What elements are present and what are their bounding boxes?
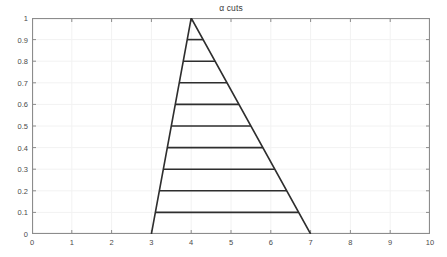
x-axis-tick-labels: 012345678910 [32, 238, 430, 252]
figure-canvas: α cuts 00.10.20.30.40.50.60.70.80.91 012… [0, 0, 447, 257]
y-tick-label: 0.7 [18, 78, 28, 87]
axes-and-data-svg [32, 18, 430, 234]
axes-box [33, 19, 430, 234]
x-tick-label: 6 [269, 238, 273, 247]
y-tick-label: 0.8 [18, 57, 28, 66]
y-tick-label: 0.3 [18, 165, 28, 174]
x-tick-label: 1 [70, 238, 74, 247]
y-tick-label: 0.9 [18, 35, 28, 44]
y-tick-label: 0.5 [18, 122, 28, 131]
x-tick-label: 3 [149, 238, 153, 247]
x-tick-label: 9 [388, 238, 392, 247]
x-tick-label: 8 [348, 238, 352, 247]
x-tick-label: 2 [110, 238, 114, 247]
x-tick-label: 5 [229, 238, 233, 247]
x-tick-label: 4 [189, 238, 193, 247]
tick-marks [32, 18, 430, 234]
plot-area: α cuts [32, 18, 430, 234]
y-tick-label: 0.1 [18, 208, 28, 217]
axis-frame [33, 19, 430, 234]
chart-title: α cuts [32, 3, 430, 13]
data-line [151, 18, 310, 234]
x-tick-label: 7 [309, 238, 313, 247]
data-series-group [151, 18, 310, 234]
y-tick-label: 0.2 [18, 186, 28, 195]
x-tick-label: 10 [426, 238, 434, 247]
grid-lines [32, 18, 430, 234]
y-tick-label: 0 [24, 230, 28, 239]
y-tick-label: 1 [24, 14, 28, 23]
y-tick-label: 0.4 [18, 143, 28, 152]
y-tick-label: 0.6 [18, 100, 28, 109]
x-tick-label: 0 [30, 238, 34, 247]
y-axis-tick-labels: 00.10.20.30.40.50.60.70.80.91 [0, 18, 28, 234]
